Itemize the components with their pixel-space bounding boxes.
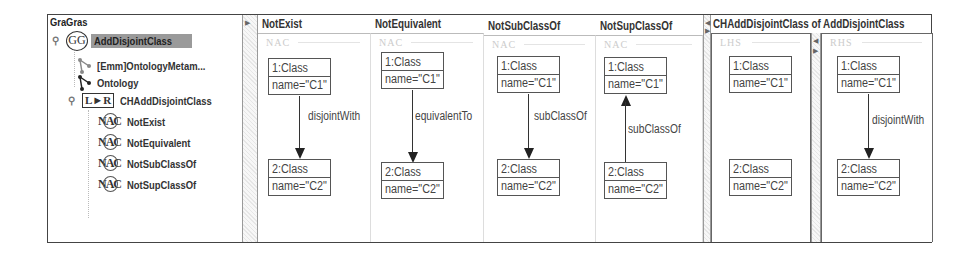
tree-item-label: NotEquivalent [127, 137, 190, 149]
tree-item-label: AddDisjointClass [91, 34, 192, 48]
class-node-c1[interactable]: 1:Class name="C1" [837, 56, 900, 93]
nac-panels-area: NotExist NAC 1:Class name="C1" disjointW… [258, 15, 703, 242]
rhs-pane[interactable]: RHS 1:Class name="C1" disjointWith 2:Cla… [821, 33, 933, 242]
nac-panel-notsubclassof: NotSubClassOf NAC 1:Class name="C1" subC… [484, 15, 596, 242]
class-node-c2[interactable]: 2:Class name="C2" [268, 159, 331, 196]
node-attr: name="C2" [733, 179, 788, 193]
tree-item-grammar[interactable]: ⚲ GG AddDisjointClass [52, 32, 192, 49]
expand-toggle-icon[interactable]: ⚲ [68, 95, 76, 106]
node-attr: name="C2" [272, 179, 327, 193]
node-attr: name="C2" [608, 182, 663, 196]
collapse-arrow-icon[interactable]: ◀ [705, 19, 710, 26]
nac-panel-notequivalent: NotEquivalent NAC 1:Class name="C1" equi… [371, 15, 484, 242]
nac-canvas[interactable]: NAC 1:Class name="C1" subClassOf 2:Class… [484, 35, 596, 242]
nac-canvas[interactable]: NAC 1:Class name="C1" equivalentTo 2:Cla… [371, 33, 484, 242]
divider [636, 44, 692, 45]
nac-title: NotEquivalent [375, 17, 441, 31]
splitter-tree-nac[interactable]: ▶ [242, 15, 258, 242]
divider [298, 42, 360, 43]
expand-toggle-icon[interactable]: ⚲ [52, 35, 60, 46]
nac-panel-notsupclassof: NotSupClassOf NAC 1:Class name="C1" subC… [596, 15, 703, 242]
divider [524, 44, 585, 45]
tree-item-label: NotExist [127, 116, 165, 128]
node-type: 1:Class [608, 60, 644, 74]
node-type: 1:Class [385, 55, 421, 69]
tree-item-rule[interactable]: ⚲ L►R CHAddDisjointClass [68, 92, 232, 109]
node-type: 1:Class [733, 59, 769, 73]
node-attr: name="C1" [608, 77, 663, 91]
edge-line[interactable] [868, 94, 869, 154]
type-graph-icon [76, 58, 94, 74]
arrow-head-icon [295, 148, 305, 159]
divider [862, 42, 922, 43]
edge-label: subClassOf [628, 122, 681, 136]
agg-editor-window: GraGras ⚲ GG AddDisjointClass [Emm]Ontol… [47, 14, 932, 243]
edge-line[interactable] [625, 102, 626, 164]
host-graph-icon [76, 75, 94, 91]
collapse-arrow-icon[interactable]: ◀ [813, 37, 818, 44]
tree-item-nac[interactable]: NAC NotExist [98, 113, 174, 130]
edge-label: subClassOf [534, 109, 587, 123]
tree-item-type-graph[interactable]: [Emm]OntologyMetam... [76, 57, 229, 74]
tree-item-nac[interactable]: NAC NotSupClassOf [98, 176, 211, 193]
edge-label: equivalentTo [415, 109, 472, 123]
class-node-c1[interactable]: 1:Class name="C1" [268, 58, 331, 95]
class-node-c2[interactable]: 2:Class name="C2" [604, 162, 667, 199]
class-node-c2[interactable]: 2:Class name="C2" [497, 159, 560, 196]
nac-ghost-label: NAC [492, 39, 516, 50]
rhs-ghost-label: RHS [830, 37, 852, 48]
expand-arrow-icon[interactable]: ▶ [813, 47, 818, 54]
tree-item-nac[interactable]: NAC NotSubClassOf [98, 155, 211, 172]
class-node-c2[interactable]: 2:Class name="C2" [837, 159, 900, 196]
nac-title: NotSubClassOf [488, 19, 560, 33]
node-attr: name="C1" [501, 76, 556, 90]
node-attr: name="C1" [272, 78, 327, 92]
nac-icon: NAC [98, 156, 121, 171]
class-node-c1[interactable]: 1:Class name="C1" [729, 56, 792, 93]
graph-grammar-icon: GG [66, 31, 88, 51]
node-attr: name="C2" [385, 182, 440, 196]
rule-icon: L►R [82, 93, 114, 108]
tree-guide-line [74, 47, 75, 87]
lhs-ghost-label: LHS [720, 37, 742, 48]
lhs-pane[interactable]: LHS 1:Class name="C1" 2:Class name="C2" [711, 33, 811, 242]
node-attr: name="C1" [385, 72, 440, 86]
edge-line[interactable] [528, 94, 529, 154]
edge-line[interactable] [412, 90, 413, 158]
node-type: 2:Class [608, 165, 644, 179]
rule-title: CHAddDisjointClass of AddDisjointClass [713, 17, 905, 31]
tree-item-label: NotSubClassOf [127, 158, 196, 170]
nac-canvas[interactable]: NAC 1:Class name="C1" disjointWith 2:Cla… [258, 33, 371, 242]
node-type: 2:Class [501, 162, 537, 176]
arrow-head-icon [621, 95, 631, 106]
expand-arrow-icon[interactable]: ▶ [245, 19, 250, 26]
nac-icon: NAC [98, 114, 121, 129]
nac-canvas[interactable]: NAC 1:Class name="C1" subClassOf 2:Class… [596, 35, 703, 242]
nac-ghost-label: NAC [604, 39, 628, 50]
tree-item-nac[interactable]: NAC NotEquivalent [98, 134, 204, 151]
splitter-lhs-rhs[interactable]: ◀ ▶ [811, 33, 821, 242]
nac-icon: NAC [98, 177, 121, 192]
node-type: 1:Class [272, 61, 308, 75]
edge-label: disjointWith [872, 113, 924, 127]
tree-title: GraGras [50, 16, 87, 28]
tree-item-label: NotSupClassOf [127, 179, 196, 191]
nac-ghost-label: NAC [266, 37, 290, 48]
tree-guide-line [88, 110, 89, 218]
arrow-head-icon [864, 148, 874, 159]
expand-arrow-icon[interactable]: ▶ [705, 27, 710, 34]
class-node-c1[interactable]: 1:Class name="C1" [604, 57, 667, 94]
tree-item-host-graph[interactable]: Ontology [76, 74, 147, 91]
edge-line[interactable] [299, 96, 300, 154]
nac-panel-notexist: NotExist NAC 1:Class name="C1" disjointW… [258, 15, 371, 242]
arrow-head-icon [524, 148, 534, 159]
splitter-nac-rule[interactable]: ◀ ▶ [703, 15, 711, 242]
class-node-c2[interactable]: 2:Class name="C2" [729, 159, 792, 196]
node-attr: name="C2" [501, 179, 556, 193]
tree-item-label: [Emm]OntologyMetam... [97, 60, 205, 72]
tree-item-label: Ontology [97, 77, 138, 89]
class-node-c1[interactable]: 1:Class name="C1" [381, 52, 444, 89]
nac-title: NotSupClassOf [600, 19, 672, 33]
class-node-c1[interactable]: 1:Class name="C1" [497, 56, 560, 93]
class-node-c2[interactable]: 2:Class name="C2" [381, 162, 444, 199]
